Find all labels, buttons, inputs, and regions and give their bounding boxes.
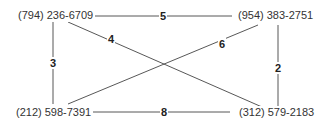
edge-weight-6: 6 xyxy=(218,38,226,50)
node-954-383-2751: (954) 383-2751 xyxy=(238,9,313,22)
edge-weight-8: 8 xyxy=(160,106,168,118)
node-212-598-7391: (212) 598-7391 xyxy=(16,106,91,119)
node-794-236-6709: (794) 236-6709 xyxy=(18,9,93,22)
edge-weight-3: 3 xyxy=(49,57,57,69)
node-312-579-2183: (312) 579-2183 xyxy=(239,106,314,119)
edge-weight-2: 2 xyxy=(274,62,282,74)
edge-weight-4: 4 xyxy=(107,33,115,45)
edge-tl-br xyxy=(68,22,262,107)
edge-bl-tr xyxy=(68,25,258,104)
edge-weight-5: 5 xyxy=(159,10,167,22)
